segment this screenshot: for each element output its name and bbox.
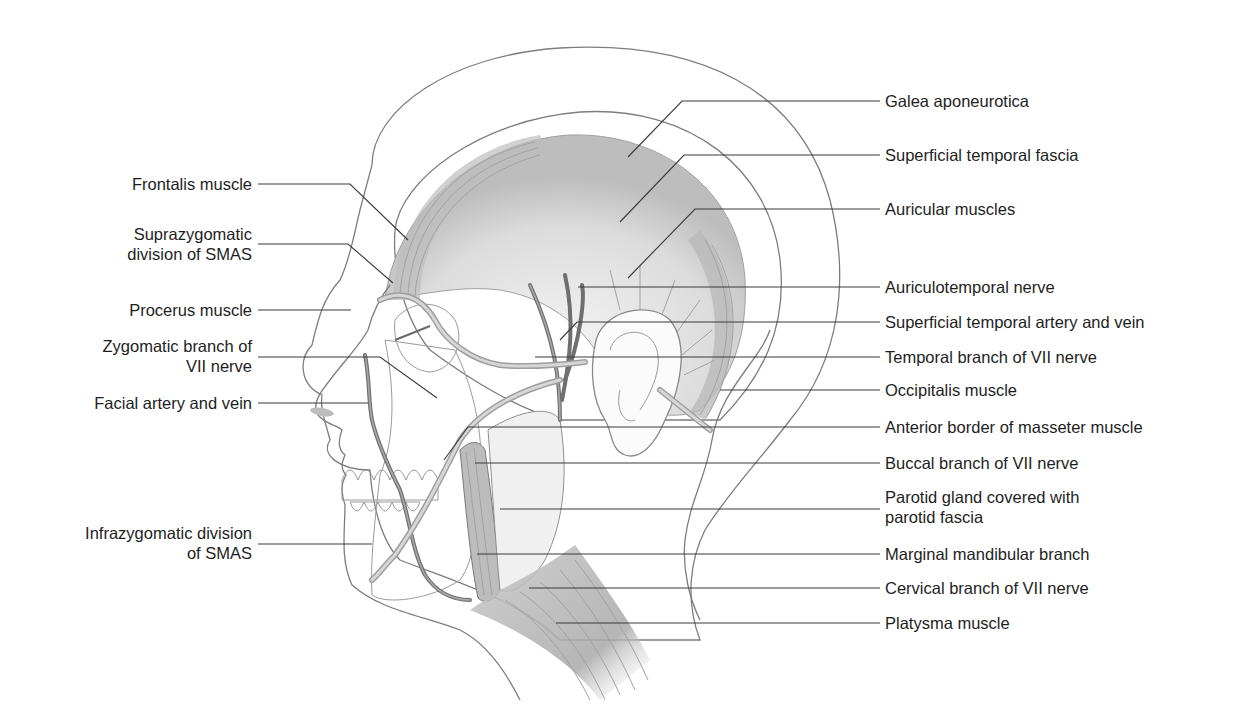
label-facial-artery-vein: Facial artery and vein [94, 393, 252, 413]
label-marginal-mandibular: Marginal mandibular branch [885, 544, 1090, 564]
label-buccal-branch: Buccal branch of VII nerve [885, 453, 1079, 473]
label-infrazygomatic-smas: Infrazygomatic division of SMAS [85, 523, 252, 563]
ear [592, 310, 681, 456]
eyelashes [395, 326, 430, 340]
label-superficial-temporal-artery-vein: Superficial temporal artery and vein [885, 312, 1145, 332]
label-superficial-temporal-fascia: Superficial temporal fascia [885, 145, 1079, 165]
label-cervical-branch: Cervical branch of VII nerve [885, 578, 1089, 598]
label-parotid-gland: Parotid gland covered with parotid fasci… [885, 487, 1079, 527]
label-temporal-branch: Temporal branch of VII nerve [885, 347, 1097, 367]
label-auricular-muscles: Auricular muscles [885, 199, 1015, 219]
label-galea-aponeurotica: Galea aponeurotica [885, 91, 1029, 111]
label-suprazygomatic-smas: Suprazygomatic division of SMAS [127, 224, 252, 264]
label-platysma-muscle: Platysma muscle [885, 613, 1010, 633]
facial-artery [365, 355, 470, 600]
label-auriculotemporal-nerve: Auriculotemporal nerve [885, 277, 1055, 297]
label-occipitalis-muscle: Occipitalis muscle [885, 380, 1017, 400]
label-zygomatic-branch: Zygomatic branch of VII nerve [103, 336, 252, 376]
label-masseter-border: Anterior border of masseter muscle [885, 417, 1143, 437]
label-procerus-muscle: Procerus muscle [129, 300, 252, 320]
label-frontalis-muscle: Frontalis muscle [132, 174, 252, 194]
